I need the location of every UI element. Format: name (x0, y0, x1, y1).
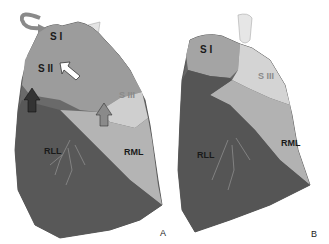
label-s3-b: S III (258, 72, 274, 81)
trachea-b (238, 14, 252, 43)
label-s2-a: S II (38, 64, 53, 74)
s1-region-b (186, 35, 240, 78)
label-s3-a: S III (119, 91, 135, 100)
label-rml-b: RML (281, 139, 301, 148)
label-rll-a: RLL (44, 147, 62, 156)
panel-label-a: A (160, 229, 166, 238)
label-s1-a: S I (50, 32, 62, 42)
panel-a-lung (15, 14, 162, 238)
label-s1-b: S I (200, 45, 212, 55)
label-rml-a: RML (124, 148, 144, 157)
panel-b-lung (178, 14, 310, 232)
label-rll-b: RLL (197, 151, 215, 160)
panel-label-b: B (311, 230, 317, 239)
